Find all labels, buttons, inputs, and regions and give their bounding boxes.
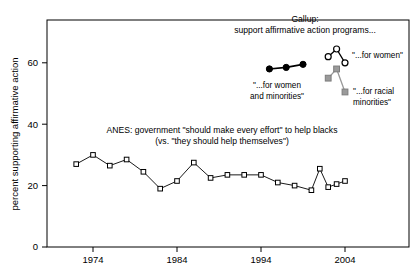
data-point-marker — [158, 186, 163, 191]
data-point-marker — [325, 75, 331, 81]
data-series-group — [74, 46, 348, 193]
y-tick-label: 0 — [33, 241, 38, 252]
y-axis-title: percent supporting affirmative action — [9, 58, 20, 211]
data-point-marker — [141, 169, 146, 174]
data-point-marker — [342, 89, 348, 95]
series-line — [76, 155, 345, 190]
data-point-marker — [283, 64, 289, 70]
data-point-marker — [242, 173, 247, 178]
data-point-marker — [300, 61, 306, 67]
data-point-marker — [124, 157, 129, 162]
data-point-marker — [74, 162, 79, 167]
affirmative-action-line-chart: percent supporting affirmative action 02… — [0, 0, 420, 280]
data-point-marker — [91, 153, 96, 158]
y-tick-label: 20 — [27, 180, 38, 191]
anes-description: (vs. "they should help themselves") — [155, 136, 289, 146]
gallup-header: Gallup: — [291, 14, 318, 24]
label-for-women: "...for women" — [352, 51, 403, 60]
label-for-women-and-minorities: "...for women — [253, 81, 301, 90]
x-tick-label: 1984 — [166, 254, 187, 265]
x-tick-label: 2004 — [334, 254, 355, 265]
gallup-header: support affirmative action programs... — [234, 25, 376, 35]
data-point-marker — [192, 160, 197, 165]
data-point-marker — [334, 46, 340, 52]
data-point-marker — [318, 166, 323, 171]
data-point-marker — [175, 179, 180, 184]
x-axis-ticks: 1974198419942004 — [82, 247, 355, 265]
data-point-marker — [334, 182, 339, 187]
label-for-racial-minorities: "...for racial — [353, 87, 394, 96]
x-tick-label: 1994 — [250, 254, 271, 265]
y-tick-label: 40 — [27, 119, 38, 130]
chart-annotations: Gallup:support affirmative action progra… — [107, 14, 403, 146]
y-tick-label: 60 — [27, 57, 38, 68]
data-point-marker — [292, 183, 297, 188]
data-point-marker — [334, 66, 340, 72]
chart-container: percent supporting affirmative action 02… — [0, 0, 420, 280]
data-point-marker — [276, 180, 281, 185]
anes-description: ANES: government "should make every effo… — [107, 125, 338, 135]
label-for-women-and-minorities: and minorities" — [250, 92, 304, 101]
x-tick-label: 1974 — [82, 254, 103, 265]
data-point-marker — [208, 176, 213, 181]
data-point-marker — [259, 173, 264, 178]
data-point-marker — [225, 173, 230, 178]
data-point-marker — [343, 179, 348, 184]
y-axis-ticks: 0204060 — [27, 57, 47, 252]
data-point-marker — [266, 66, 272, 72]
label-for-racial-minorities: minorities" — [353, 98, 391, 107]
data-point-marker — [108, 163, 113, 168]
data-point-marker — [326, 185, 331, 190]
data-point-marker — [309, 188, 314, 193]
data-point-marker — [342, 60, 348, 66]
data-point-marker — [325, 54, 331, 60]
